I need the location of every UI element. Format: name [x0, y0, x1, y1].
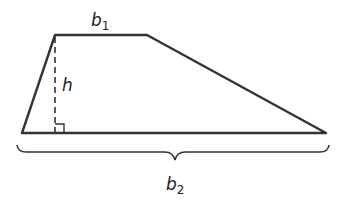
- label-b2: b2: [166, 174, 184, 197]
- label-b1: b1: [91, 10, 109, 33]
- bottom-brace: [17, 145, 329, 160]
- right-angle-marker: [55, 124, 64, 133]
- trapezoid-diagram: b1 h b2: [0, 0, 350, 212]
- label-h: h: [62, 75, 73, 95]
